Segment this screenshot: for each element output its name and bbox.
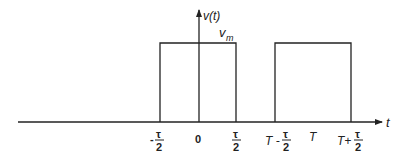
svg-text:τ: τ [283,128,288,140]
amplitude-subscript: m [226,33,234,43]
v-axis-label: v(t) [203,9,220,23]
svg-text:2: 2 [355,141,361,153]
pulse-train-diagram: t v(t) v m - τ 2 0 τ 2 T - τ 2 T T+ τ 2 [0,0,403,166]
svg-text:T+: T+ [337,134,351,148]
tick-T-minus-tau-half: T - τ 2 [265,128,291,153]
svg-text:T -: T - [265,134,280,148]
svg-text:-: - [150,133,154,145]
tick-zero: 0 [195,133,201,145]
svg-text:2: 2 [233,141,239,153]
t-axis-label: t [386,115,391,130]
tick-T: T [309,130,318,144]
svg-text:2: 2 [156,141,162,153]
svg-text:2: 2 [283,141,289,153]
svg-text:τ: τ [355,128,360,140]
tick-tau-half: τ 2 [232,128,241,153]
pulse-1 [160,43,236,122]
svg-text:τ: τ [233,128,238,140]
svg-text:τ: τ [156,128,161,140]
tick-neg-tau-half: - τ 2 [150,128,164,153]
tick-T-plus-tau-half: T+ τ 2 [337,128,363,153]
pulse-2 [275,43,351,122]
